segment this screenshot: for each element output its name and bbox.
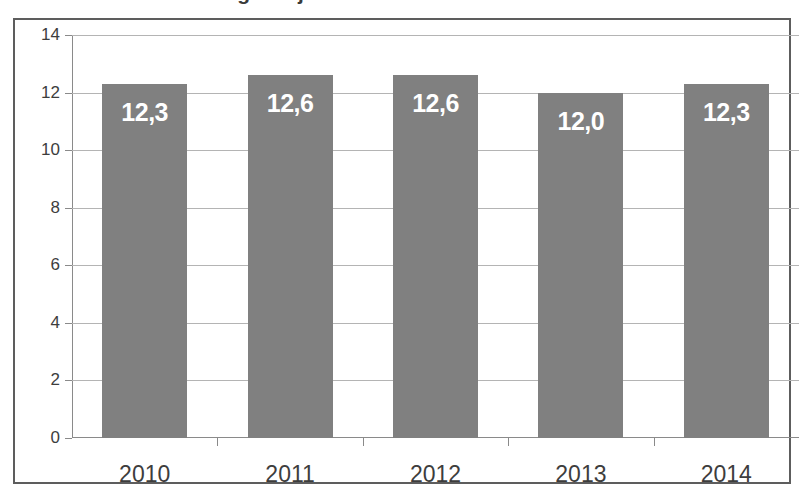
bar[interactable]: 12,3 [102,84,187,438]
gridline [72,35,799,36]
bar[interactable]: 12,0 [538,93,623,438]
bar-value-label: 12,3 [684,98,769,127]
y-axis-tick-mark [65,208,72,209]
y-axis-tick-label: 12 [41,83,60,103]
y-axis-tick-label: 6 [51,255,60,275]
y-axis-tick-mark [65,35,72,36]
y-axis-tick-mark [65,438,72,439]
y-axis-tick-label: 4 [51,313,60,333]
x-axis-category-label: 2011 [265,461,314,488]
y-axis-tick-mark [65,323,72,324]
x-axis-category-label: 2013 [555,461,606,488]
bar-value-label: 12,6 [248,89,333,118]
bar-value-label: 12,0 [538,107,623,136]
bar[interactable]: 12,6 [248,75,333,438]
chart-frame: 02468101214 12,312,612,612,012,3 2010201… [13,18,791,484]
y-axis-tick-mark [65,380,72,381]
bar[interactable]: 12,3 [684,84,769,438]
cropped-title-remnant: Tätigkeitsjahr [0,0,810,13]
bar[interactable]: 12,6 [393,75,478,438]
x-axis-category-label: 2012 [410,461,461,488]
x-axis-tick-mark [217,438,218,446]
y-axis-tick-mark [65,150,72,151]
y-axis-tick-label: 2 [51,370,60,390]
cropped-title-text: Tätigkeitsjahr [200,0,337,5]
y-axis-tick-label: 14 [41,25,60,45]
bar-value-label: 12,3 [102,98,187,127]
plot-area: 02468101214 12,312,612,612,012,3 2010201… [72,35,799,438]
x-axis-tick-mark [508,438,509,446]
x-axis-tick-mark [654,438,655,446]
x-axis-category-label: 2014 [701,461,752,488]
y-axis-tick-label: 10 [41,140,60,160]
bar-value-label: 12,6 [393,89,478,118]
y-axis-line [72,35,73,438]
y-axis-tick-mark [65,93,72,94]
x-axis-category-label: 2010 [119,461,170,488]
y-axis-tick-label: 8 [51,198,60,218]
y-axis-tick-mark [65,265,72,266]
x-axis-tick-mark [363,438,364,446]
y-axis-tick-label: 0 [51,428,60,448]
